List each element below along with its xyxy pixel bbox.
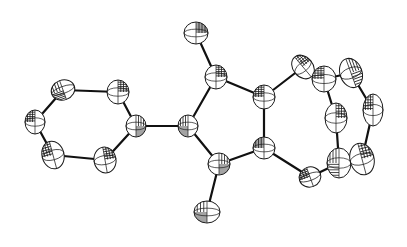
atom-ellipsoid-a10 (208, 153, 230, 175)
atom-ellipsoid-a4 (126, 115, 146, 137)
bonds-layer (35, 33, 373, 212)
atom-ellipsoid-a7 (178, 115, 198, 137)
atom-ellipsoid-a1 (48, 76, 77, 103)
atom-ellipsoid-a2 (107, 80, 129, 104)
atom-ellipsoid-a16 (336, 55, 367, 91)
atom-ellipsoid-a18 (325, 103, 347, 133)
atom-ellipsoid-a11 (253, 137, 275, 159)
atom-ellipsoid-a21 (296, 164, 324, 190)
ortep-diagram (0, 0, 407, 247)
atom-ellipsoid-a20 (346, 140, 377, 177)
atom-ellipsoid-a8 (205, 65, 227, 89)
molecule-figure (0, 0, 407, 247)
atom-ellipsoid-a17 (363, 94, 383, 126)
atom-ellipsoid-a9 (253, 85, 275, 109)
atom-ellipsoid-a5 (39, 139, 67, 172)
atom-ellipsoid-a15 (312, 66, 336, 92)
atom-ellipsoid-a3 (25, 110, 45, 134)
atom-ellipsoid-a13 (194, 201, 220, 223)
atom-ellipsoid-a19 (327, 148, 351, 178)
atom-ellipsoid-a12 (184, 22, 208, 44)
